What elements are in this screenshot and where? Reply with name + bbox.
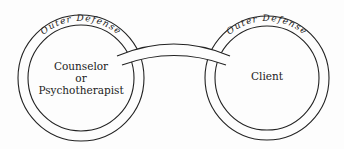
left-label-line-2: or — [75, 72, 87, 84]
left-label-line-3: Psychotherapist — [38, 84, 124, 96]
right-label: Client — [251, 70, 284, 82]
counseling-relationship-diagram: Outer Defense Outer Defense Counselor or… — [0, 0, 344, 149]
left-label-line-1: Counselor — [54, 60, 109, 72]
